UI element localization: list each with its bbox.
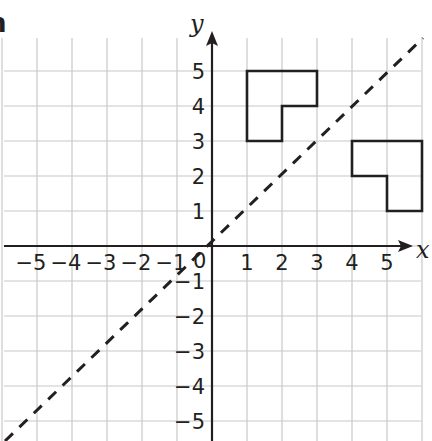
x-tick-label: 1 — [240, 251, 253, 275]
x-tick-label: 4 — [345, 251, 358, 275]
x-tick-label: −5 — [16, 251, 47, 275]
coordinate-grid-figure: n y x −5−4−3−2−112345 54321−1−2−3−4−5 0 — [0, 0, 432, 441]
x-tick-label: −2 — [121, 251, 152, 275]
y-tick-label: 2 — [192, 165, 205, 189]
mirror-line-y-equals-x — [5, 38, 423, 441]
x-axis-label: x — [416, 236, 430, 264]
y-axis-label: y — [189, 10, 204, 38]
cropped-text-fragment: n — [0, 8, 7, 38]
svg-text:n: n — [0, 8, 7, 38]
y-axis — [206, 31, 218, 441]
y-tick-label: 5 — [192, 60, 205, 84]
x-tick-label: 5 — [380, 251, 393, 275]
y-tick-label: 1 — [192, 200, 205, 224]
x-tick-label: −4 — [51, 251, 82, 275]
y-tick-label: −4 — [174, 375, 205, 399]
x-tick-label: 3 — [310, 251, 323, 275]
y-tick-label: 4 — [192, 95, 205, 119]
y-tick-label: −2 — [174, 305, 205, 329]
y-tick-label: 3 — [192, 130, 205, 154]
x-tick-label: 2 — [275, 251, 288, 275]
x-tick-label: −3 — [86, 251, 117, 275]
y-tick-label: −5 — [174, 410, 205, 434]
y-tick-label: −3 — [174, 340, 205, 364]
